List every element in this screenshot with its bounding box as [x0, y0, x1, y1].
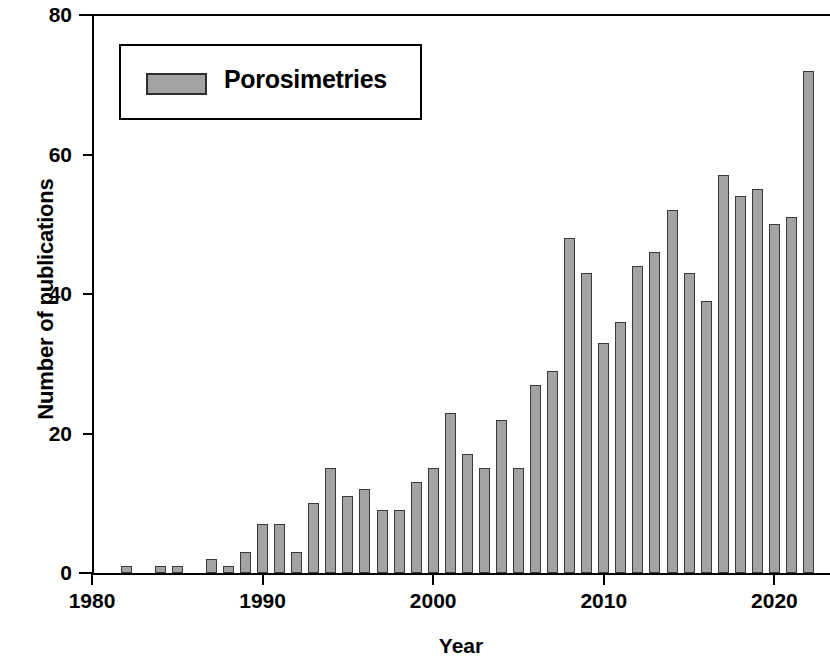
bar-2022	[803, 71, 814, 573]
bar-1996	[359, 489, 370, 573]
y-tick-mark	[79, 14, 93, 16]
bar-2008	[564, 238, 575, 573]
bar-2021	[786, 217, 797, 573]
bar-2002	[462, 454, 473, 573]
bar-1998	[394, 510, 405, 573]
x-tick-mark	[432, 573, 434, 585]
bar-1989	[240, 552, 251, 573]
bar-1990	[257, 524, 268, 573]
bar-2014	[667, 210, 678, 573]
bar-2000	[428, 468, 439, 573]
y-tick-label: 80	[14, 4, 72, 25]
bar-2001	[445, 413, 456, 573]
y-tick-mark	[83, 154, 93, 156]
bar-1985	[172, 566, 183, 573]
legend: Porosimetries	[119, 44, 422, 120]
bar-2003	[479, 468, 490, 573]
y-axis-title: Number of publications	[33, 39, 59, 559]
x-tick-label: 2010	[554, 590, 654, 611]
bar-2006	[530, 385, 541, 573]
bar-1995	[342, 496, 353, 573]
bar-2005	[513, 468, 524, 573]
bar-1994	[325, 468, 336, 573]
bar-2004	[496, 420, 507, 573]
bar-1992	[291, 552, 302, 573]
x-tick-label: 1980	[42, 590, 142, 611]
x-tick-mark	[773, 573, 775, 585]
y-tick-label: 0	[14, 562, 72, 583]
bar-2010	[598, 343, 609, 573]
x-tick-mark	[603, 573, 605, 585]
bar-2012	[632, 266, 643, 573]
bar-2020	[769, 224, 780, 573]
bar-2017	[718, 175, 729, 573]
legend-swatch-porosimetries	[146, 73, 207, 95]
bar-1997	[377, 510, 388, 573]
bar-1993	[308, 503, 319, 573]
bar-chart: 806040200 19801990200020102020 Number of…	[0, 0, 830, 669]
bar-1988	[223, 566, 234, 573]
bar-2009	[581, 273, 592, 573]
bar-2007	[547, 371, 558, 573]
x-tick-label: 2000	[383, 590, 483, 611]
bar-2018	[735, 196, 746, 573]
bar-2015	[684, 273, 695, 573]
bar-1987	[206, 559, 217, 573]
bar-1984	[155, 566, 166, 573]
bar-2016	[701, 301, 712, 573]
x-tick-mark	[262, 573, 264, 585]
x-tick-label: 2020	[724, 590, 824, 611]
x-axis-line	[92, 573, 830, 575]
bar-2011	[615, 322, 626, 573]
legend-label-porosimetries: Porosimetries	[224, 65, 387, 94]
bar-2013	[649, 252, 660, 573]
x-axis-title: Year	[92, 634, 830, 658]
x-tick-mark	[91, 573, 93, 585]
bar-2019	[752, 189, 763, 573]
x-tick-label: 1990	[213, 590, 313, 611]
bar-1999	[411, 482, 422, 573]
plot-top-border	[92, 14, 830, 16]
bar-1991	[274, 524, 285, 573]
y-tick-mark	[83, 293, 93, 295]
bar-1982	[121, 566, 132, 573]
y-tick-mark	[83, 433, 93, 435]
